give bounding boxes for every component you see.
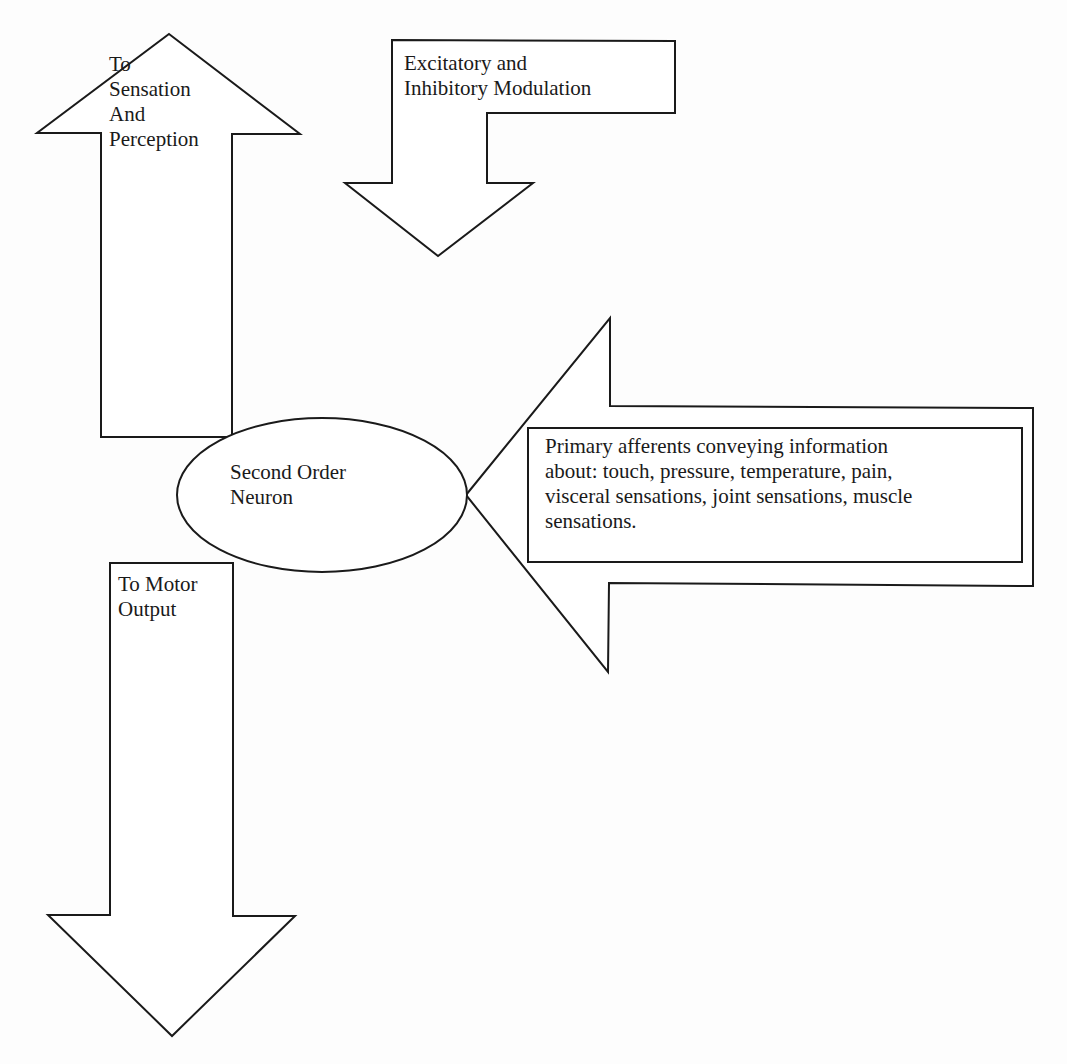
neuron-label: Second Order Neuron xyxy=(230,460,400,510)
neuron-diagram: To Sensation And Perception Excitatory a… xyxy=(0,0,1067,1064)
motor-label: To Motor Output xyxy=(118,572,228,622)
sensation-label: To Sensation And Perception xyxy=(109,52,229,152)
motor-down-arrow xyxy=(48,563,295,1036)
modulation-label: Excitatory and Inhibitory Modulation xyxy=(404,51,674,101)
afferent-label: Primary afferents conveying information … xyxy=(545,434,1015,534)
